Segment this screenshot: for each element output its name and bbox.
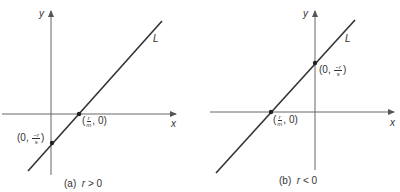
- x-intercept-label-b: (rm, 0): [273, 114, 298, 127]
- y-intercept-point-b: [313, 61, 317, 65]
- line-L-b: [216, 20, 355, 173]
- panel-a: [2, 11, 176, 175]
- line-L-a: [28, 21, 162, 171]
- y-axis-label-b: y: [303, 9, 308, 19]
- x-axis-label-a: x: [171, 119, 176, 129]
- line-label-a: L: [153, 34, 159, 44]
- caption-b: (b) r < 0: [279, 176, 317, 186]
- y-intercept-label-a: (0, −rs): [17, 132, 44, 145]
- caption-a: (a) r > 0: [64, 179, 102, 189]
- y-intercept-point-a: [50, 141, 54, 145]
- x-intercept-label-a: (rm, 0): [82, 115, 107, 128]
- figure-canvas: [0, 0, 400, 192]
- x-intercept-point-a: [77, 112, 81, 116]
- y-axis-label-a: y: [39, 9, 44, 19]
- line-label-b: L: [345, 34, 351, 44]
- panel-b: [210, 11, 394, 173]
- y-intercept-label-b: (0, −rs): [319, 64, 346, 77]
- x-axis-label-b: x: [390, 118, 395, 128]
